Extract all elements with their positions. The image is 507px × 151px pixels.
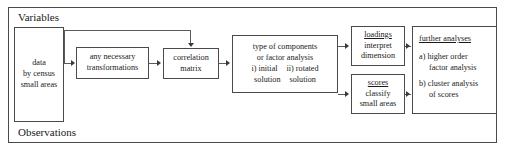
arrowhead-data-to-transformations [71, 60, 75, 66]
node-analysis-rotated-solution: solution [290, 75, 316, 86]
node-further-analyses-item-a: a) higher order factor analysis [419, 52, 477, 74]
arrowhead-transformations-to-correlation-matrix [157, 60, 161, 66]
connector-analysis-to-loadings [338, 46, 345, 47]
node-correlation-matrix-line-2: matrix [180, 64, 201, 75]
connector-transformations-to-correlation-matrix [149, 63, 157, 64]
arrowhead-bypass-to-correlation-matrix [188, 43, 194, 47]
node-scores-line-1: classify [365, 89, 390, 100]
node-any-necessary-transformations[interactable]: any necessary transformations [76, 47, 149, 79]
node-transformations-line-2: transformations [87, 63, 138, 74]
node-analysis-initial-solution: solution [254, 75, 280, 86]
node-transformations-line-1: any necessary [90, 52, 136, 63]
node-analysis-line-2: or factor analysis [257, 53, 313, 64]
node-further-analyses-item-a-line-2: factor analysis [419, 63, 477, 74]
node-correlation-matrix[interactable]: correlation matrix [163, 48, 219, 79]
connector-bypass-drop [190, 30, 191, 44]
node-further-analyses[interactable]: further analyses a) higher order factor … [412, 26, 497, 114]
node-loadings-interpret-dimension[interactable]: loadings interpret dimension [351, 26, 405, 66]
node-analysis-initial-label: i) initial [251, 64, 277, 75]
connector-correlation-matrix-to-analysis [219, 63, 226, 64]
node-correlation-matrix-line-1: correlation [173, 53, 208, 64]
node-scores-classify-small-areas[interactable]: scores classify small areas [351, 74, 405, 114]
connector-bypass-riser [64, 30, 65, 64]
node-analysis-line-1: type of components [253, 42, 318, 53]
node-type-of-components-or-factor-analysis[interactable]: type of components or factor analysis i)… [232, 35, 338, 93]
connector-bypass-span [64, 30, 191, 31]
frame-label-variables: Variables [18, 12, 59, 23]
node-data-line-1: data [32, 58, 46, 69]
node-analysis-solutions-row-2: solution solution [254, 75, 316, 86]
node-loadings-line-1: interpret [364, 41, 392, 52]
arrowhead-scores-to-further-analyses [406, 91, 410, 97]
node-further-analyses-item-a-line-1: a) higher order [419, 52, 477, 63]
node-data-line-2: by census [23, 69, 55, 80]
arrowhead-loadings-to-further-analyses [406, 43, 410, 49]
arrowhead-correlation-matrix-to-analysis [226, 60, 230, 66]
flowchart-canvas: Variables Observations data by census sm… [0, 0, 507, 151]
node-data-by-census-small-areas[interactable]: data by census small areas [14, 27, 64, 122]
node-further-analyses-item-b-line-2: of scores [419, 90, 478, 101]
node-scores-heading: scores [368, 78, 388, 89]
node-further-analyses-item-b: b) cluster analysis of scores [419, 79, 478, 101]
arrowhead-analysis-to-loadings [345, 43, 349, 49]
node-data-line-3: small areas [21, 80, 58, 91]
node-further-analyses-item-b-line-1: b) cluster analysis [419, 79, 478, 90]
arrowhead-analysis-to-scores [345, 91, 349, 97]
node-further-analyses-heading: further analyses [419, 34, 471, 45]
connector-analysis-to-scores [338, 94, 345, 95]
frame-label-observations: Observations [18, 127, 76, 138]
node-loadings-heading: loadings [364, 30, 392, 41]
node-analysis-rotated-label: ii) rotated [287, 64, 319, 75]
node-analysis-solutions-row-1: i) initial ii) rotated [251, 64, 318, 75]
node-loadings-line-2: dimension [361, 51, 395, 62]
node-scores-line-2: small areas [360, 99, 397, 110]
